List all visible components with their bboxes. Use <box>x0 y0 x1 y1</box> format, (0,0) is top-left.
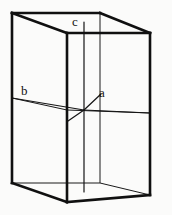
axis-label-c: c <box>72 15 78 28</box>
axis-b-line <box>68 110 84 121</box>
edge-top-left-front <box>12 13 67 33</box>
unit-cell-figure: a b c <box>0 0 172 215</box>
axis-label-b: b <box>21 84 28 97</box>
unit-cell-drawing <box>0 0 172 215</box>
edge-top-right <box>100 13 150 33</box>
edge-bottom-front <box>67 195 150 202</box>
edge-bottom-back-right <box>100 183 150 195</box>
axis-b-extension <box>12 98 84 110</box>
edge-bottom-front-left <box>12 183 67 202</box>
axis-a-extension <box>84 110 150 113</box>
axis-label-a: a <box>99 86 105 99</box>
